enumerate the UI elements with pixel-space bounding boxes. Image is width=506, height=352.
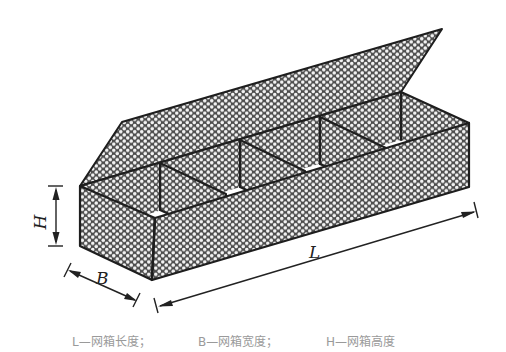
caption-item-length: L—网箱长度； — [72, 332, 151, 349]
b-tick-left — [64, 263, 71, 277]
b-arrow-left-icon — [68, 270, 81, 278]
height-label: H — [30, 213, 50, 230]
l-tick-left — [154, 298, 158, 313]
b-arrow-right-icon — [124, 293, 137, 301]
figure-caption: L—网箱长度； B—网箱宽度； H—网箱高度 — [0, 332, 506, 352]
l-tick-right — [474, 202, 478, 218]
l-arrow-right-icon — [461, 212, 476, 219]
l-arrow-left-icon — [158, 300, 173, 307]
dimension-height — [48, 186, 63, 246]
caption-item-width: B—网箱宽度； — [198, 332, 278, 349]
length-label: L — [308, 242, 320, 262]
h-arrow-up-icon — [53, 187, 60, 200]
h-arrow-down-icon — [53, 232, 60, 245]
width-label: B — [95, 268, 109, 288]
caption-item-height: H—网箱高度 — [326, 332, 395, 349]
